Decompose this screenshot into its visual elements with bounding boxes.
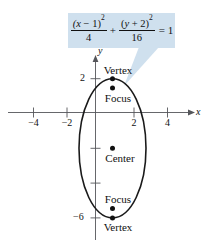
equation-var-x: x	[76, 18, 81, 29]
focus-bottom-point	[110, 206, 115, 211]
vertex-bottom-label: Vertex	[104, 221, 133, 233]
equation-callout-box: (x − 1)2 4 + (y + 2)2 16 = 1	[68, 13, 175, 48]
x-tick-label--2: −2	[62, 117, 73, 128]
equation-denominator-1: 4	[84, 32, 93, 43]
equation-exponent-1: 2	[101, 13, 105, 22]
vertex-top-point	[110, 76, 115, 81]
x-tick-label-2: 2	[132, 117, 137, 128]
equation-numerator-1: (x − 1)2	[71, 18, 107, 29]
vertex-bottom-point	[110, 215, 115, 220]
equation-right-hand-side: = 1	[159, 25, 173, 36]
equation-fraction-1: (x − 1)2 4	[71, 18, 107, 42]
x-axis-label: x	[196, 106, 200, 117]
center-label: Center	[105, 152, 134, 164]
x-tick-label-4: 4	[165, 117, 170, 128]
center-point	[110, 146, 115, 151]
focus-top-label: Focus	[105, 92, 131, 104]
y-tick-label-2: 2	[80, 72, 85, 83]
focus-top-point	[110, 86, 115, 91]
x-axis	[8, 108, 195, 118]
equation-exponent-2: 2	[149, 13, 153, 22]
ellipse-figure: (x − 1)2 4 + (y + 2)2 16 = 1 x y −4 −2 2…	[0, 0, 209, 247]
focus-bottom-label: Focus	[105, 193, 131, 205]
equation-var-y: y	[124, 18, 129, 29]
x-tick-label--4: −4	[28, 117, 39, 128]
equation-numerator-2: (y + 2)2	[119, 18, 155, 29]
vertex-top-label: Vertex	[104, 64, 133, 76]
equation-plus-operator: +	[110, 25, 116, 36]
ellipse-equation: (x − 1)2 4 + (y + 2)2 16 = 1	[70, 18, 173, 42]
equation-denominator-2: 16	[130, 32, 145, 43]
equation-fraction-2: (y + 2)2 16	[119, 18, 155, 42]
y-tick-label--6: −6	[73, 211, 84, 222]
